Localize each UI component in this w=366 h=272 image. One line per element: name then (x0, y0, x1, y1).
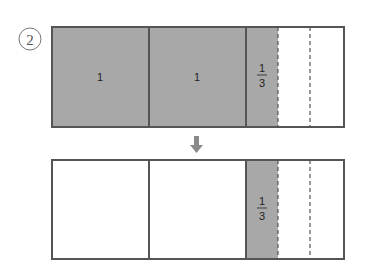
step-number: 2 (26, 32, 34, 48)
top-cell-1-label: 1 (97, 71, 103, 83)
step-marker: 2 (19, 28, 41, 50)
bottom-bar: 1 3 (52, 160, 344, 259)
bottom-fraction-denominator: 3 (259, 210, 265, 222)
bottom-fraction-numerator: 1 (259, 195, 265, 207)
top-cell-2-label: 1 (194, 71, 200, 83)
down-arrow-icon (190, 136, 203, 153)
top-fraction-denominator: 3 (259, 77, 265, 89)
top-fraction-numerator: 1 (259, 62, 265, 74)
top-cell-empty (278, 27, 344, 127)
bottom-bar-bg (52, 160, 344, 259)
fraction-diagram: 2 1 1 1 3 1 3 (0, 0, 366, 272)
top-bar: 1 1 1 3 (52, 27, 344, 127)
